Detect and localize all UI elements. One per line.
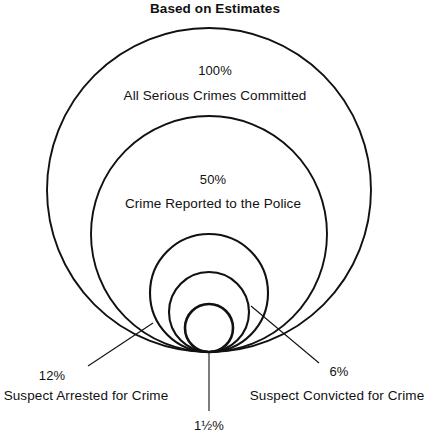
label-percent-arrested: 12% bbox=[39, 368, 66, 383]
label-desc-reported: Crime Reported to the Police bbox=[125, 196, 301, 211]
circle-imprisoned bbox=[185, 304, 233, 352]
circle-convicted bbox=[169, 272, 249, 352]
crime-funnel-diagram: Based on Estimates 100% All Serious Crim… bbox=[0, 0, 430, 437]
label-desc-all-crimes: All Serious Crimes Committed bbox=[124, 88, 307, 103]
leader-line-convicted bbox=[251, 306, 319, 363]
diagram-title: Based on Estimates bbox=[150, 1, 280, 16]
circle-arrested bbox=[150, 234, 268, 352]
leader-line-arrested bbox=[88, 323, 153, 366]
label-desc-arrested: Suspect Arrested for Crime bbox=[4, 388, 169, 403]
label-percent-reported: 50% bbox=[200, 172, 227, 187]
label-percent-all-crimes: 100% bbox=[198, 63, 232, 78]
label-percent-imprisoned: 1½% bbox=[194, 418, 224, 433]
diagram-canvas: Based on Estimates 100% All Serious Crim… bbox=[0, 0, 430, 437]
label-desc-convicted: Suspect Convicted for Crime bbox=[250, 388, 425, 403]
label-percent-convicted: 6% bbox=[330, 364, 349, 379]
